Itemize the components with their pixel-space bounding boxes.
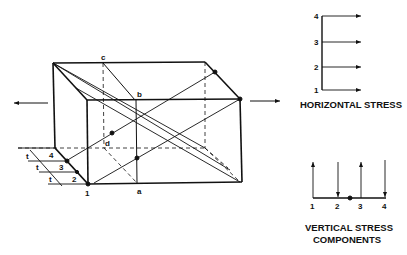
point-marker — [238, 97, 242, 101]
level-label-2: 2 — [314, 63, 319, 72]
label-d: d — [105, 139, 110, 148]
thickness-dimension-line — [30, 150, 62, 186]
vertical-stress-caption-line2: COMPONENTS — [313, 234, 381, 245]
stress-diagram: c b a d 1 4 3 2 t t t 4 3 2 1 HORIZONTAL… — [0, 0, 407, 255]
front-left-edge — [87, 100, 88, 184]
thickness-label-t: t — [36, 163, 39, 172]
vertical-stress-caption-line1: VERTICAL STRESS — [305, 222, 393, 233]
diagonal-up-2 — [94, 99, 240, 183]
vertical-stress-diagram — [313, 160, 386, 200]
point-marker — [213, 70, 217, 74]
thickness-label-t: t — [49, 175, 52, 184]
horizontal-stress-caption: HORIZONTAL STRESS — [300, 99, 402, 110]
level-label-1: 1 — [314, 86, 319, 95]
diagonal-1-hidden — [205, 148, 228, 168]
level-label-3: 3 — [314, 38, 319, 47]
back-left-edge — [53, 63, 55, 148]
front-right-edge — [240, 99, 242, 182]
label-b: b — [137, 90, 142, 99]
label-corner-1: 1 — [85, 189, 90, 198]
front-bottom-edge — [88, 182, 242, 184]
centroid-dot — [348, 196, 352, 200]
label-a: a — [137, 187, 142, 196]
horizontal-stress-diagram — [322, 16, 361, 90]
diagonal-1 — [53, 63, 205, 148]
position-label-1: 1 — [310, 202, 315, 211]
layer-label-2: 2 — [72, 175, 77, 184]
position-label-4: 4 — [382, 202, 387, 211]
block — [14, 62, 280, 186]
thickness-label-t: t — [26, 152, 29, 161]
label-c: c — [101, 53, 106, 62]
section-c-b — [103, 63, 135, 100]
front-top-edge — [87, 99, 240, 100]
position-label-2: 2 — [335, 202, 340, 211]
point-marker — [110, 131, 114, 135]
section-c-d-hidden — [103, 63, 104, 148]
position-label-3: 3 — [358, 202, 363, 211]
diagonal-3 — [76, 88, 240, 182]
back-top-edge — [53, 62, 205, 63]
section-d-a-hidden — [104, 148, 137, 183]
section-b-a — [136, 100, 137, 183]
layer-label-3: 3 — [59, 163, 64, 172]
point-marker — [135, 156, 139, 160]
level-label-4: 4 — [314, 12, 319, 21]
layer-label-4: 4 — [49, 151, 54, 160]
top-right-depth-edge — [205, 62, 240, 99]
top-left-depth-edge — [53, 63, 87, 100]
